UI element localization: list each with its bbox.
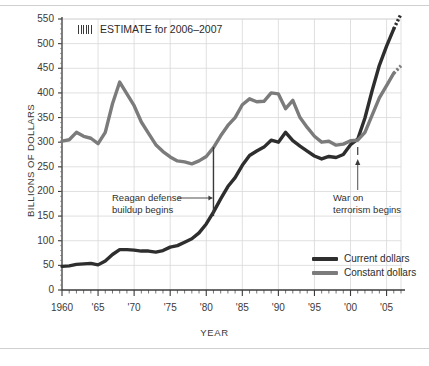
y-tick-50: 50: [22, 260, 54, 270]
annotation-reagan-line2: buildup begins: [112, 204, 182, 216]
annotation-war-on-terrorism: War on terrorism begins: [333, 192, 401, 215]
legend-label-constant-dollars: Constant dollars: [344, 267, 416, 278]
legend-swatch-current-dollars: [312, 257, 338, 261]
x-tick-80: '80: [186, 302, 226, 313]
x-tick-1960: 1960: [42, 302, 82, 313]
defense-spending-chart: BILLIONS OF DOLLARS YEAR 050100150200250…: [0, 0, 429, 366]
y-tick-500: 500: [22, 39, 54, 49]
chart-legend: Current dollars Constant dollars: [312, 253, 416, 278]
y-tick-100: 100: [22, 236, 54, 246]
legend-label-current-dollars: Current dollars: [344, 253, 410, 264]
y-tick-0: 0: [22, 285, 54, 295]
y-tick-200: 200: [22, 186, 54, 196]
annotation-terror-line1: War on: [333, 192, 401, 204]
y-tick-400: 400: [22, 88, 54, 98]
estimate-key-label: ESTIMATE for 2006–2007: [100, 23, 222, 35]
x-tick-65: '65: [78, 302, 118, 313]
annotation-reagan-line1: Reagan defense: [112, 192, 182, 204]
legend-swatch-constant-dollars: [312, 271, 338, 275]
legend-item-current-dollars: Current dollars: [312, 253, 416, 264]
y-tick-450: 450: [22, 63, 54, 73]
y-tick-250: 250: [22, 162, 54, 172]
y-tick-350: 350: [22, 113, 54, 123]
x-tick-70: '70: [114, 302, 154, 313]
legend-item-constant-dollars: Constant dollars: [312, 267, 416, 278]
x-tick-75: '75: [150, 302, 190, 313]
estimate-key: ESTIMATE for 2006–2007: [78, 23, 222, 35]
x-tick-05: '05: [367, 302, 407, 313]
x-tick-95: '95: [294, 302, 334, 313]
x-tick-90: '90: [258, 302, 298, 313]
x-tick-85: '85: [222, 302, 262, 313]
annotation-terror-line2: terrorism begins: [333, 204, 401, 216]
annotation-reagan-buildup: Reagan defense buildup begins: [112, 192, 182, 215]
y-tick-300: 300: [22, 137, 54, 147]
y-tick-150: 150: [22, 211, 54, 221]
y-tick-550: 550: [22, 14, 54, 24]
estimate-hatch-icon: [78, 25, 94, 34]
x-tick-00: '00: [331, 302, 371, 313]
